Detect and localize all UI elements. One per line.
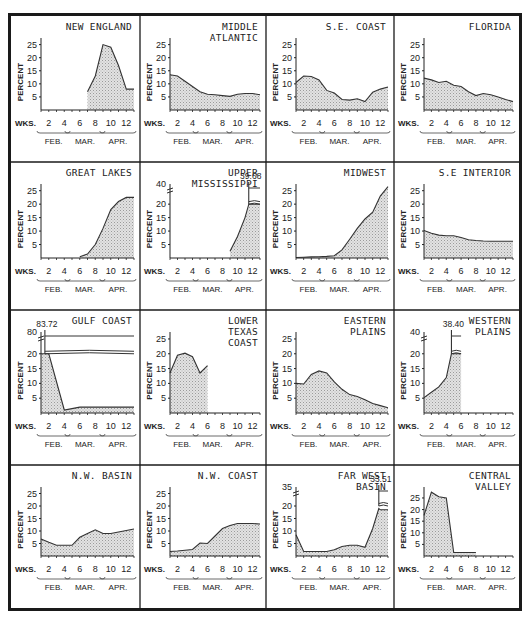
x-axis-label: WKS. [270,422,291,431]
month-label: APR. [488,440,507,449]
y-tick-label: 10 [282,226,292,236]
y-tick-label: 5 [32,539,37,549]
month-label: APR. [109,583,128,592]
y-tick-label: 25 [156,40,166,50]
month-bracket [65,279,105,281]
month-label: APR. [363,583,382,592]
month-label: FEB. [45,440,63,449]
month-label: APR. [109,440,128,449]
month-label: FEB. [427,137,445,146]
month-label: MAR. [456,137,476,146]
x-tick-label: 4 [190,564,195,574]
x-axis-label: WKS. [270,119,291,128]
panel-title: CENTRAL [469,470,511,481]
y-tick-label: 20 [282,199,292,209]
panel-greatlakes: GREAT LAKES510152025PERCENTWKS.24681012F… [15,167,136,294]
x-tick-label: 4 [190,118,195,128]
x-tick-label: 10 [232,266,242,276]
y-tick-label: 10 [410,528,420,538]
x-tick-label: 6 [77,266,82,276]
y-axis-label: PERCENT [16,63,25,101]
x-tick-label: 6 [459,564,464,574]
x-tick-label: 2 [46,421,51,431]
panel-title: ATLANTIC [210,32,258,43]
peak-annotation: 38.40 [443,319,465,329]
panel-upper-mississippi: UPPERMISSISSIPPI39.68405101520PERCENTWKS… [144,167,262,294]
y-tick-label: 5 [415,393,420,403]
month-label: MAR. [75,440,95,449]
y-tick-label: 20 [27,501,37,511]
x-tick-label: 2 [175,118,180,128]
area-fill [424,78,513,110]
month-label: APR. [109,285,128,294]
x-axis-label: WKS. [15,422,36,431]
month-label: APR. [363,440,382,449]
x-axis-label: WKS. [270,267,291,276]
y-tick-label: 5 [415,539,420,549]
month-label: MAR. [329,440,349,449]
x-tick-label: 10 [486,266,496,276]
month-label: FEB. [300,137,318,146]
y-tick-label: 25 [410,186,420,196]
x-tick-label: 10 [106,118,116,128]
y-tick-label: 15 [27,364,37,374]
x-tick-label: 8 [347,266,352,276]
y-tick-label: 15 [27,66,37,76]
x-tick-label: 2 [429,266,434,276]
y-tick-label: 25 [27,186,37,196]
y-tick-label: 15 [156,364,166,374]
panel-eastern-plains: EASTERNPLAINS510152025PERCENTWKS.2468101… [270,315,390,449]
x-tick-label: 2 [46,118,51,128]
x-tick-label: 8 [220,421,225,431]
month-bracket [193,434,232,436]
x-tick-label: 6 [205,564,210,574]
month-label: FEB. [427,583,445,592]
y-tick-label: 10 [282,526,292,536]
y-axis-label: PERCENT [399,510,408,548]
panel-nwcoast: N.W. COAST510152025PERCENTWKS.24681012FE… [144,470,262,592]
area-fill [80,197,134,258]
x-tick-label: 4 [444,564,449,574]
month-label: MAR. [203,583,223,592]
peak-annotation: 33.51 [370,474,392,484]
x-tick-label: 12 [501,421,511,431]
y-axis-label: PERCENT [145,510,154,548]
y-tick-label: 5 [287,240,292,250]
y-tick-label: 20 [27,199,37,209]
y-tick-label: 10 [156,79,166,89]
month-label: APR. [235,583,254,592]
x-tick-label: 12 [247,266,257,276]
x-tick-label: 4 [62,266,67,276]
y-tick-label: 5 [32,240,37,250]
y-tick-label: 10 [27,79,37,89]
axis-break-wave [451,350,461,351]
x-tick-label: 8 [347,421,352,431]
x-tick-label: 12 [501,266,511,276]
x-tick-label: 12 [121,266,131,276]
area-fill [41,354,134,413]
y-tick-label: 5 [287,539,292,549]
y-axis-label: PERCENT [399,63,408,101]
y-tick-label: 5 [161,393,166,403]
month-label: FEB. [45,285,63,294]
panel-title: EASTERN [344,315,386,326]
month-label: FEB. [300,583,318,592]
panel-title: GULF COAST [72,315,132,326]
x-tick-label: 10 [106,564,116,574]
y-tick-label: 20 [410,199,420,209]
y-tick-label: 10 [410,378,420,388]
month-bracket [320,131,360,133]
month-label: FEB. [45,583,63,592]
y-tick-label: 15 [410,516,420,526]
y-tick-label: 20 [27,349,37,359]
y-tick-label: 10 [27,226,37,236]
x-tick-label: 12 [121,564,131,574]
month-bracket [447,577,486,579]
x-tick-label: 12 [247,564,257,574]
x-tick-label: 4 [444,118,449,128]
x-axis-label: WKS. [15,119,36,128]
month-label: APR. [235,440,254,449]
x-tick-label: 12 [501,564,511,574]
panel-title: VALLEY [475,481,511,492]
x-tick-label: 6 [459,118,464,128]
